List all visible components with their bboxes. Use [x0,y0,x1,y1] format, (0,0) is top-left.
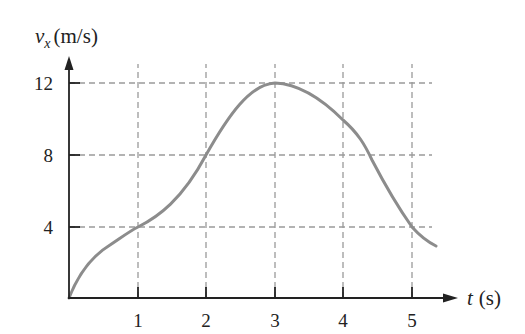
y-axis-label: vx(m/s) [35,24,98,51]
velocity-curve [69,83,436,298]
x-axis-unit: (s) [479,286,501,310]
x-tick-4: 4 [338,310,348,331]
y-tick-8: 8 [44,145,54,166]
grid [69,64,432,298]
y-tick-12: 12 [34,73,53,94]
y-tick-4: 4 [44,217,54,238]
x-tick-1: 1 [133,310,143,331]
x-tick-3: 3 [270,310,280,331]
axes [68,68,446,299]
x-axis-var: t [467,286,474,310]
y-axis-unit: (m/s) [54,24,98,48]
y-axis-arrow-icon [65,56,74,70]
y-axis-subscript: x [43,36,51,51]
x-axis-arrow-icon [443,294,458,303]
x-tick-5: 5 [407,310,417,331]
x-tick-2: 2 [201,310,211,331]
x-axis-label: t(s) [467,286,501,310]
velocity-time-chart: 12 8 4 1 2 3 4 5 vx(m/s) t(s) [0,0,525,334]
